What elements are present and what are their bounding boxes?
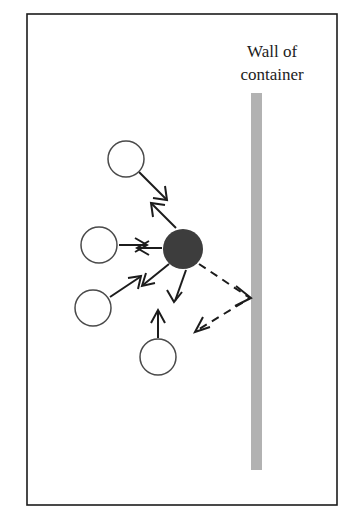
diagram-canvas: Wall of container bbox=[0, 0, 360, 522]
wall-label-line2: container bbox=[240, 65, 304, 84]
brownian-particle bbox=[163, 229, 203, 269]
molecule-bottom bbox=[140, 339, 176, 375]
molecule-top-left bbox=[108, 141, 144, 177]
container-wall bbox=[251, 93, 262, 470]
brownian-motion-figure: Wall of container bbox=[0, 0, 360, 522]
wall-label-line1: Wall of bbox=[247, 42, 297, 61]
molecule-left-lower bbox=[75, 290, 111, 326]
molecule-left-upper bbox=[81, 227, 117, 263]
